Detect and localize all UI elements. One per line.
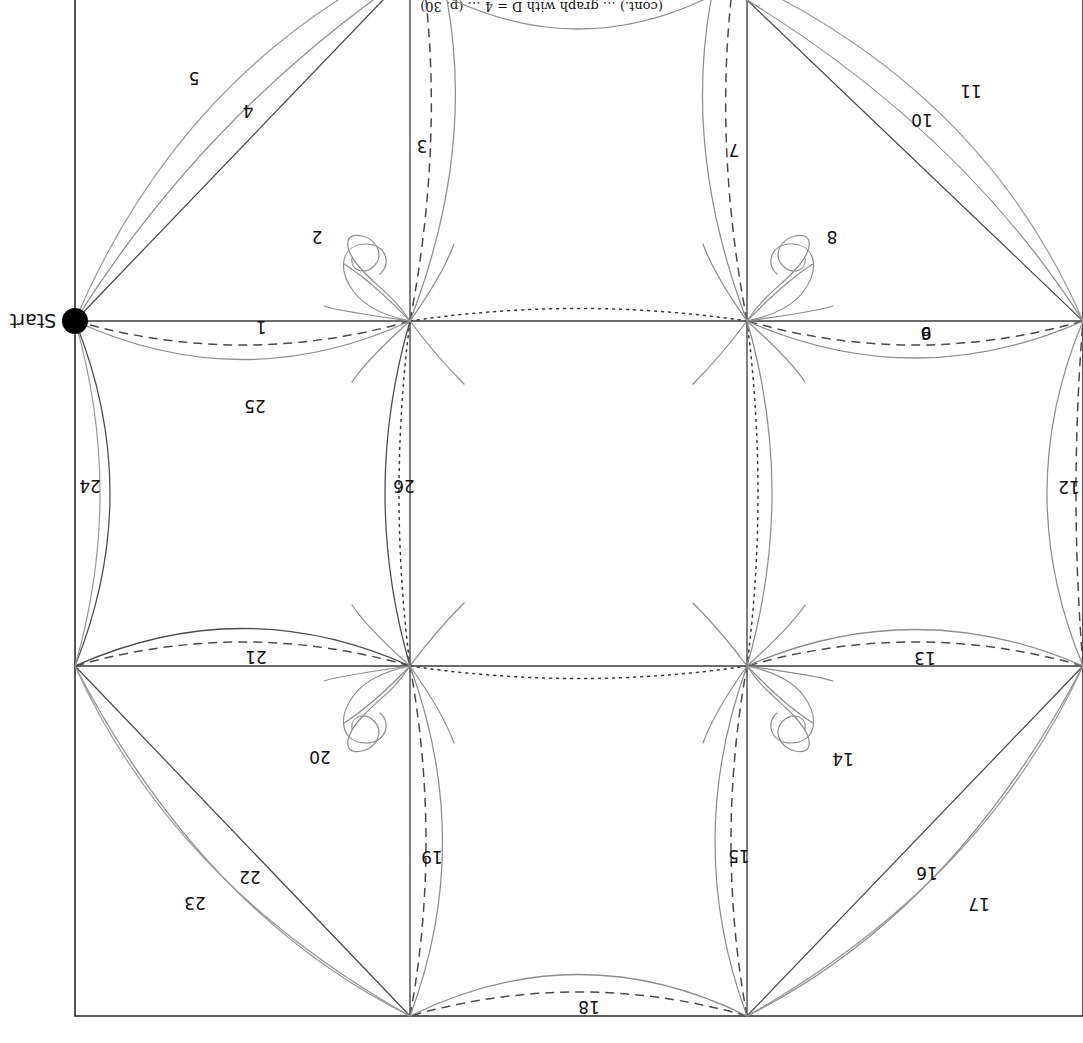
edge-label-21: 21 [245, 647, 267, 667]
eulerian-diagram: 1 2 3 4 5 6 7 8 10 11 12 13 14 15 16 17 … [0, 0, 1083, 1043]
edge-group-21 [75, 629, 410, 667]
edge-label-8: 8 [827, 227, 838, 247]
edge-label-10: 10 [911, 110, 933, 130]
edge-group-1-25 [75, 321, 410, 360]
edge-label-16: 16 [916, 863, 938, 883]
self-loop-8 [747, 235, 813, 321]
edge-label-18: 18 [578, 997, 600, 1017]
edge-label-11: 11 [960, 81, 982, 101]
edge-label-23: 23 [184, 893, 206, 913]
edge-group-center-dotted [410, 309, 747, 679]
self-loop-14 [747, 666, 813, 752]
self-loop-20 [344, 666, 410, 752]
edge-label-14: 14 [832, 749, 854, 769]
edge-label-9: 9 [921, 323, 932, 343]
edge-group-19 [410, 666, 443, 1016]
edge-label-4: 4 [243, 101, 254, 121]
edge-label-2: 2 [312, 227, 323, 247]
start-vertex[interactable] [62, 308, 88, 334]
edge-number-labels: 1 2 3 4 5 6 7 8 10 11 12 13 14 15 16 17 … [79, 68, 1080, 1017]
edge-label-12: 12 [1058, 477, 1080, 497]
edge-group-15 [715, 666, 747, 1016]
figure-page: (cont.) … graph with D = 4 … (p. 30) [0, 0, 1083, 1043]
edge-label-24: 24 [79, 476, 101, 496]
edge-label-5: 5 [189, 68, 200, 88]
edge-label-15: 15 [728, 846, 750, 866]
edge-group-3 [410, 0, 455, 321]
edge-label-19: 19 [421, 847, 443, 867]
edge-label-20: 20 [309, 747, 331, 767]
edge-label-26: 26 [393, 476, 415, 496]
edge-label-1: 1 [256, 317, 267, 337]
edge-label-17: 17 [968, 894, 990, 914]
start-label: Start [10, 310, 56, 332]
edge-group-4-5 [75, 0, 373, 321]
edge-group-7 [702, 0, 747, 321]
edge-label-25: 25 [244, 396, 266, 416]
edge-group-bottom-arc [453, 0, 703, 29]
edge-label-22: 22 [239, 867, 261, 887]
diagram-rotator: 1 2 3 4 5 6 7 8 10 11 12 13 14 15 16 17 … [0, 0, 1083, 1043]
edge-group-9 [747, 321, 1083, 358]
edge-label-3: 3 [417, 136, 428, 156]
self-loop-2 [344, 235, 410, 321]
edge-group-center-left-vertical [747, 321, 772, 666]
edge-label-13: 13 [914, 648, 936, 668]
edge-label-7: 7 [729, 140, 740, 160]
